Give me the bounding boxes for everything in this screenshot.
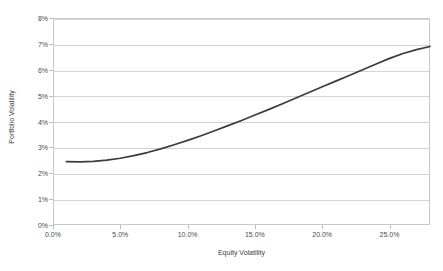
series-layer <box>0 0 443 271</box>
chart-container: 8% 7% 6% 5% 4% 3% 2% 1% 0% 0.0% 5.0% 10.… <box>0 0 443 271</box>
series-line-portfolio-volatility <box>66 46 430 161</box>
